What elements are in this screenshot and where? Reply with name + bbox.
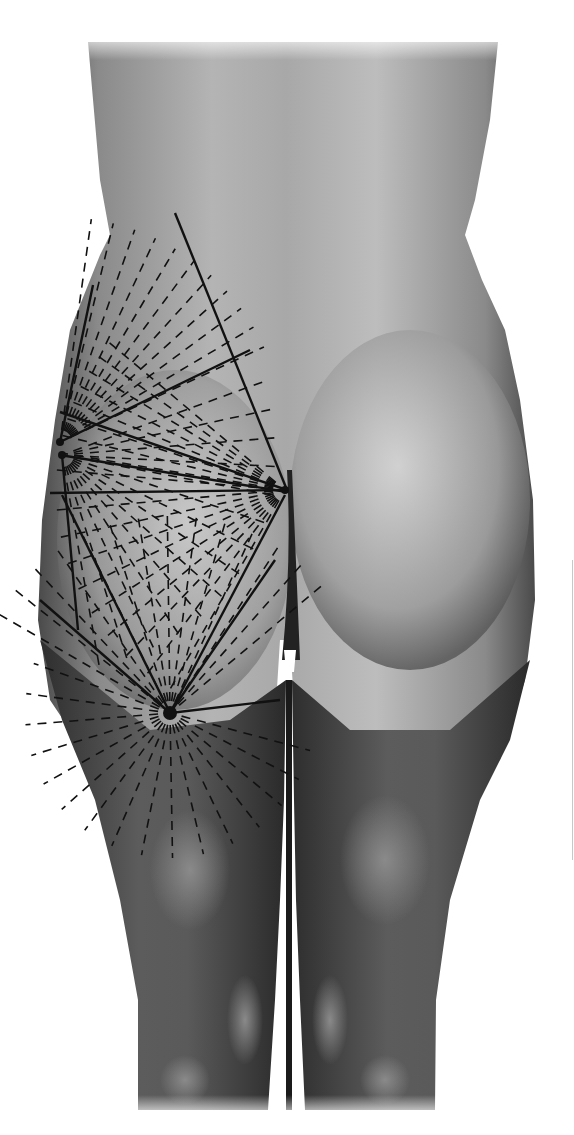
apex-point-D: [58, 451, 66, 459]
right-thigh-highlight: [340, 795, 430, 925]
apex-point-A: [56, 438, 64, 446]
right-border-line: [572, 560, 573, 860]
body-silhouette: [38, 30, 535, 1120]
right-knee-highlight-2: [312, 975, 348, 1065]
top-fade: [80, 30, 510, 60]
left-knee-highlight-2: [227, 975, 263, 1065]
left-buttock: [57, 370, 293, 710]
gap-between-thighs: [284, 650, 296, 672]
anatomical-illustration: [0, 0, 574, 1135]
apex-point-B: [281, 486, 289, 494]
right-buttock: [290, 330, 530, 670]
left-thigh-highlight: [150, 810, 230, 930]
bottom-fade: [130, 1095, 450, 1120]
apex-point-C: [163, 706, 177, 720]
